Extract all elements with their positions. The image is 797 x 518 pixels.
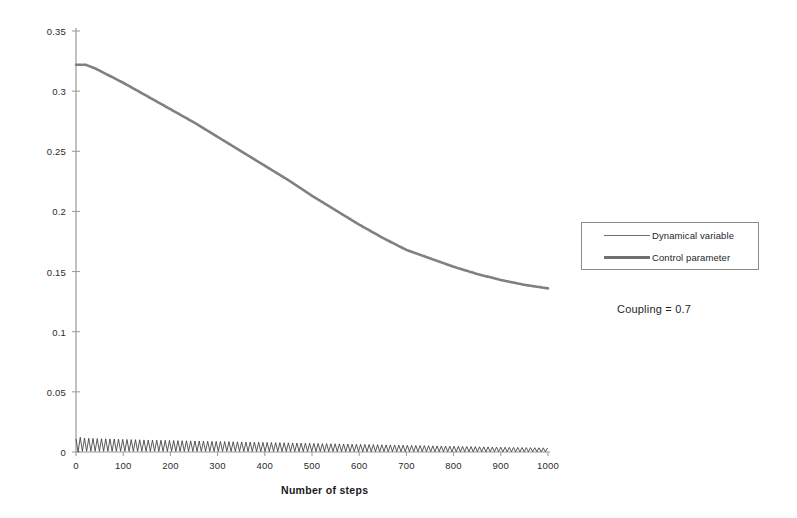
y-axis-tick-label: 0.1 (20, 326, 66, 337)
coupling-annotation: Coupling = 0.7 (617, 303, 691, 315)
x-axis-tick-label: 900 (493, 460, 509, 471)
y-axis-tick-label: 0 (20, 447, 66, 458)
x-axis-tick-label: 600 (351, 460, 367, 471)
legend-swatch-thick-line (604, 256, 650, 259)
y-axis-tick-label: 0.35 (20, 26, 66, 37)
x-axis-tick-label: 500 (304, 460, 320, 471)
x-axis-tick-label: 400 (257, 460, 273, 471)
y-axis-tick-label: 0.15 (20, 266, 66, 277)
x-axis-ticks (76, 452, 548, 456)
chart-legend: Dynamical variable Control parameter (581, 222, 759, 270)
x-axis-title: Number of steps (281, 484, 368, 496)
legend-swatch-thin-line (604, 235, 650, 236)
y-axis-tick-label: 0.05 (20, 386, 66, 397)
legend-label-control-parameter: Control parameter (652, 252, 730, 263)
x-axis-tick-label: 200 (162, 460, 178, 471)
x-axis-tick-label: 1000 (537, 460, 559, 471)
x-axis-tick-label: 100 (115, 460, 131, 471)
x-axis-tick-label: 800 (445, 460, 461, 471)
y-axis-tick-label: 0.3 (20, 86, 66, 97)
x-axis-tick-label: 0 (73, 460, 78, 471)
x-axis-tick-label: 300 (209, 460, 225, 471)
chart-figure: 00.050.10.150.20.250.30.35 0100200300400… (0, 0, 797, 518)
legend-label-dynamical-variable: Dynamical variable (652, 230, 734, 241)
legend-entry-control-parameter: Control parameter (582, 245, 758, 269)
x-axis-tick-label: 700 (398, 460, 414, 471)
legend-entry-dynamical-variable: Dynamical variable (582, 223, 758, 247)
y-axis-tick-label: 0.2 (20, 206, 66, 217)
y-axis-tick-label: 0.25 (20, 146, 66, 157)
series-line-dynamical-variable (76, 437, 548, 452)
series-line-control-parameter (76, 65, 548, 289)
